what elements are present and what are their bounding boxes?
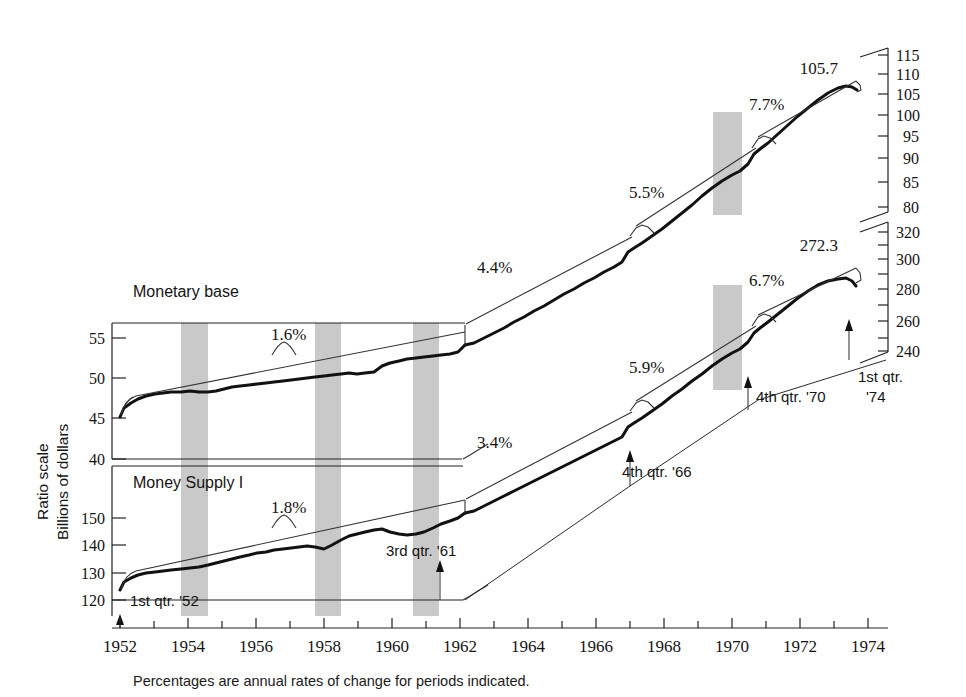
chart-container: 55 50 45 40 150 140 130 120 Ratio scale … [0,0,966,697]
end-value-monetary-base: 105.7 [800,59,839,78]
callout-label-q3-61: 3rd qtr. '61 [386,542,456,559]
mb-raxis-label-100: 100 [896,107,920,124]
ms-raxis-label-320: 320 [896,224,920,241]
callout-label-q4-66: 4th qtr. '66 [622,463,692,480]
pct-label-ms-4: 6.7% [749,271,784,290]
y-axis-title-line2: Billions of dollars [54,423,71,540]
mb-axis-label-45: 45 [89,410,105,427]
callout-label-q1-74-b: '74 [866,388,886,405]
recession-band-1953 [181,323,208,616]
xlabel-1968: 1968 [647,637,681,656]
recession-band-1957 [315,323,341,616]
xlabel-1952: 1952 [103,637,137,656]
mb-axis-label-55: 55 [89,330,105,347]
pct-label-mb-2: 4.4% [477,258,512,277]
mb-raxis-label-90: 90 [903,150,919,167]
y-axis-title-line1: Ratio scale [34,443,51,520]
ms-raxis-label-300: 300 [896,251,920,268]
xlabel-1962: 1962 [443,637,477,656]
ms-raxis-label-280: 280 [896,281,920,298]
pct-label-ms-3: 5.9% [629,358,664,377]
pct-label-mb-1: 1.6% [271,325,306,344]
mb-raxis-label-80: 80 [903,199,919,216]
xlabel-1972: 1972 [783,637,817,656]
mb-axis-label-40: 40 [89,451,105,468]
ms-raxis-label-240: 240 [896,343,920,360]
xlabel-1956: 1956 [239,637,273,656]
mb-raxis-label-110: 110 [896,66,919,83]
recession-band-1960 [413,323,439,616]
mb-raxis-label-95: 95 [903,128,919,145]
ms-axis-label-150: 150 [81,510,105,527]
end-value-money-supply: 272.3 [800,236,838,255]
xlabel-1964: 1964 [511,637,546,656]
pct-label-ms-2: 3.4% [477,433,512,452]
panel-label-monetary-base: Monetary base [133,283,239,300]
ms-axis-label-140: 140 [81,537,105,554]
ms-axis-label-130: 130 [81,565,105,582]
mb-raxis-label-85: 85 [903,174,919,191]
chart-footnote: Percentages are annual rates of change f… [133,673,530,689]
callout-label-q1-52: 1st qtr. '52 [130,592,199,609]
callout-label-q1-74-a: 1st qtr. [858,368,903,385]
ms-axis-label-120: 120 [81,592,105,609]
xlabel-1966: 1966 [579,637,613,656]
xlabel-1970: 1970 [715,637,749,656]
recession-band-1970-upper [713,112,742,215]
xlabel-1960: 1960 [375,637,409,656]
chart-svg: 55 50 45 40 150 140 130 120 Ratio scale … [0,0,966,697]
mb-raxis-label-105: 105 [896,86,920,103]
pct-label-mb-3: 5.5% [629,183,664,202]
xlabel-1958: 1958 [307,637,341,656]
xlabel-1954: 1954 [171,637,206,656]
mb-raxis-label-115: 115 [896,47,919,64]
mb-axis-label-50: 50 [89,370,105,387]
pct-label-mb-4: 7.7% [749,95,784,114]
callout-label-q4-70: 4th qtr. '70 [756,388,826,405]
pct-label-ms-1: 1.8% [271,498,306,517]
ms-raxis-label-260: 260 [896,313,920,330]
xlabel-1974: 1974 [851,637,886,656]
panel-label-money-supply: Money Supply I [133,474,243,491]
